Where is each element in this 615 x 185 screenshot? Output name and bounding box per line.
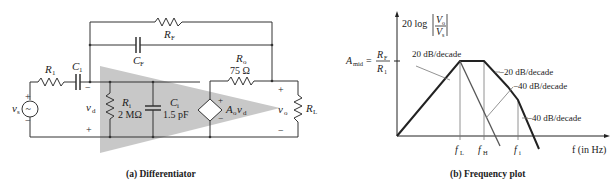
svg-text:s: s <box>17 108 20 116</box>
svg-text:v: v <box>86 101 91 113</box>
svg-text:o: o <box>284 109 288 117</box>
svg-text:v: v <box>237 103 242 115</box>
slope-annotation-3: −40 dB/decade <box>513 81 567 91</box>
svg-text:i: i <box>519 149 521 156</box>
svg-text:R: R <box>305 102 313 114</box>
rl-resistor-icon <box>294 95 302 122</box>
svg-text:1.5 pF: 1.5 pF <box>163 109 189 120</box>
svg-text:f: f <box>514 144 518 155</box>
svg-text:1: 1 <box>384 69 387 75</box>
svg-text:o: o <box>442 20 445 26</box>
rf-label: R F <box>163 28 175 42</box>
r1-resistor-icon <box>38 78 64 86</box>
tilde-glyph: ~ <box>26 103 32 114</box>
svg-text:f: f <box>478 144 482 155</box>
svg-text:+: + <box>278 84 284 95</box>
svg-text:R: R <box>121 96 129 108</box>
svg-text:s: s <box>442 32 445 38</box>
svg-text:v: v <box>278 103 283 115</box>
alt-rolloff-line <box>460 61 500 146</box>
x-axis-label: f (in Hz) <box>572 144 606 156</box>
svg-text:d: d <box>92 107 96 115</box>
slope-annotation-4: −40 dB/decade <box>527 113 581 123</box>
vd-label: v d + <box>86 101 96 135</box>
svg-text:=: = <box>366 55 372 66</box>
slope-annotation-2: −20 dB/decade <box>499 67 553 77</box>
ro-label: R o 75 Ω <box>230 52 250 76</box>
inverting-minus: − <box>85 82 91 93</box>
svg-text:F: F <box>140 60 144 68</box>
circuit-caption: (a) Differentiator <box>126 169 197 180</box>
tick-fL: f L <box>455 144 464 156</box>
svg-text:L: L <box>460 149 464 156</box>
vo-label: + v o − <box>278 84 288 136</box>
svg-text:20 log: 20 log <box>402 18 427 29</box>
plot-caption: (b) Frequency plot <box>450 169 526 180</box>
svg-text:mid: mid <box>353 60 364 67</box>
svg-text:d: d <box>243 109 247 117</box>
rl-label: R L <box>305 102 317 116</box>
svg-text:A: A <box>345 55 353 66</box>
rf-resistor-icon <box>155 18 182 26</box>
svg-text:+: + <box>218 95 223 105</box>
svg-text:+: + <box>25 91 31 102</box>
svg-text:H: H <box>483 149 488 156</box>
svg-text:R: R <box>235 52 243 64</box>
y-axis-arrow-icon <box>395 11 399 17</box>
svg-text:A: A <box>225 103 233 115</box>
svg-text:F: F <box>384 55 388 61</box>
r1-label: R 1 <box>44 63 56 77</box>
svg-text:1: 1 <box>52 69 56 77</box>
svg-text:2 MΩ: 2 MΩ <box>118 109 142 120</box>
svg-text:R: R <box>163 28 171 40</box>
svg-text:R: R <box>376 49 383 60</box>
c1-label: C 1 <box>72 60 83 74</box>
svg-text:−: − <box>218 113 223 123</box>
svg-text:L: L <box>313 108 317 116</box>
svg-text:R: R <box>44 63 52 75</box>
ro-resistor-icon <box>228 77 254 85</box>
amid-label: A mid = R F R 1 <box>345 49 390 75</box>
tick-fH: f H <box>478 144 488 156</box>
svg-text:1: 1 <box>79 66 83 74</box>
svg-text:f: f <box>455 144 459 155</box>
circuit-and-plot: ~ R 1 C 1 − R F C F R o 75 Ω + <box>0 0 615 185</box>
x-axis-arrow-icon <box>604 134 610 138</box>
svg-text:F: F <box>171 34 175 42</box>
y-axis-label: 20 log V o V s <box>402 14 447 38</box>
slope-annotation-1: 20 dB/decade <box>412 49 461 59</box>
cf-label: C F <box>133 54 144 68</box>
svg-text:75 Ω: 75 Ω <box>230 65 250 76</box>
svg-text:−: − <box>25 115 31 126</box>
svg-text:R: R <box>376 63 383 74</box>
svg-text:−: − <box>278 125 284 136</box>
svg-text:+: + <box>86 124 92 135</box>
tick-fi: f i <box>514 144 521 156</box>
